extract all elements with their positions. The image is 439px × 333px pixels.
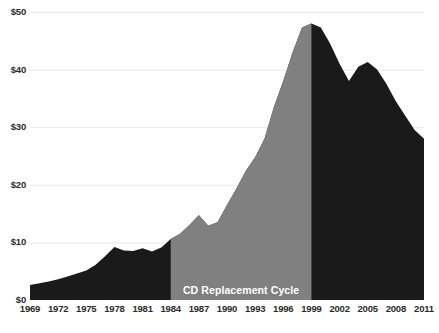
plot-area	[30, 0, 424, 312]
y-axis-tick-label: $30	[0, 121, 26, 132]
y-axis-tick-label: $50	[0, 6, 26, 17]
y-axis-tick-label: $40	[0, 64, 26, 75]
area-path-highlight	[171, 24, 312, 300]
y-axis-tick-label: $20	[0, 179, 26, 190]
area-chart-svg	[30, 0, 424, 312]
y-axis-tick-label: $10	[0, 236, 26, 247]
band-annotation-label: CD Replacement Cycle	[183, 284, 299, 296]
x-axis-tick-label: 2011	[407, 303, 439, 314]
